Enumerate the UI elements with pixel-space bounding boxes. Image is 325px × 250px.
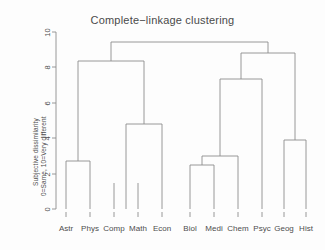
merge-bmc-psyc (220, 79, 262, 209)
x-axis-ticks (66, 212, 306, 217)
y-axis (52, 32, 56, 209)
merge-biolmedi-chem (202, 156, 238, 209)
merge-right-root (241, 53, 295, 140)
merge-biol-medi (190, 165, 214, 209)
merge-geog-hist (284, 140, 306, 209)
dendrogram-canvas (0, 0, 325, 250)
merge-math-econ (114, 124, 162, 209)
merge-overall-root (111, 42, 268, 61)
merge-astr-phys (66, 161, 90, 209)
dendrogram-tree (66, 42, 306, 209)
merge-left-root (78, 61, 144, 161)
dendrogram-figure: Complete−linkage clustering Subjective d… (0, 0, 325, 250)
